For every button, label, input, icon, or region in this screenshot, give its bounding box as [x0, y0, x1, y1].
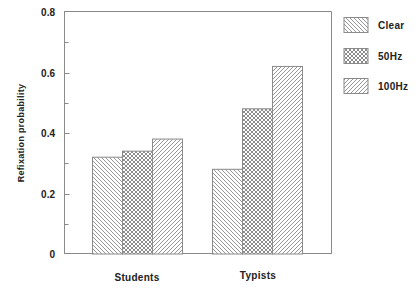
legend-label: 100Hz: [378, 81, 408, 92]
legend-item-50hz: 50Hz: [344, 49, 403, 64]
legend-item-100hz: 100Hz: [344, 79, 408, 94]
legend-swatch-clear: [344, 18, 368, 33]
legend-swatch-50hz: [344, 49, 368, 64]
y-tick-labels: 0 0.2 0.4 0.6 0.8: [41, 7, 55, 260]
legend-label: 50Hz: [378, 51, 403, 62]
bar-typists-50hz: [243, 109, 273, 254]
y-axis-ticks: [65, 43, 70, 225]
bar-students-clear: [93, 157, 123, 254]
legend: Clear 50Hz 100Hz: [344, 18, 408, 94]
legend-label: Clear: [378, 20, 405, 31]
bar-typists-clear: [213, 169, 243, 254]
bar-students-50hz: [123, 151, 153, 254]
x-category-labels: Students Typists: [114, 270, 276, 283]
y-tick-label: 0.2: [41, 189, 55, 200]
bars: [93, 66, 303, 254]
y-tick-label: 0.6: [41, 68, 55, 79]
x-category-label-students: Students: [114, 272, 159, 283]
y-axis-title: Refixation probability: [16, 84, 26, 183]
x-category-label-typists: Typists: [240, 270, 277, 281]
legend-item-clear: Clear: [344, 18, 405, 33]
bar-students-100hz: [153, 139, 183, 254]
y-tick-label: 0: [49, 249, 55, 260]
bar-chart: 0 0.2 0.4 0.6 0.8 Refixation probability…: [0, 0, 420, 296]
legend-swatch-100hz: [344, 79, 368, 94]
y-tick-label: 0.8: [41, 7, 55, 18]
y-tick-label: 0.4: [41, 128, 55, 139]
bar-typists-100hz: [273, 66, 303, 254]
